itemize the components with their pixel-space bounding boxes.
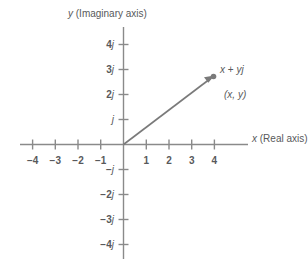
y-axis-title: y (Imaginary axis) <box>68 8 147 19</box>
x-tick-label-2: 2 <box>159 155 179 166</box>
y-tick-label-4j: 4j <box>86 39 114 50</box>
x-axis-title-rest: (Real axis) <box>257 133 308 144</box>
y-tick-unit--2: j <box>112 189 114 200</box>
vector-line <box>124 79 211 145</box>
y-tick-label--3j: −3j <box>86 214 114 225</box>
x-tick-label-3: 3 <box>182 155 202 166</box>
x-axis-title: x (Real axis) <box>252 133 308 144</box>
y-tick-unit-4: j <box>112 39 114 50</box>
y-tick-label-3j: 3j <box>86 64 114 75</box>
y-tick-unit-3: j <box>112 64 114 75</box>
x-tick-label-4: 4 <box>204 155 224 166</box>
y-tick-label--2j: −2j <box>86 189 114 200</box>
y-tick-label-j: j <box>86 114 114 125</box>
point-label-rhs: yj <box>236 64 243 75</box>
y-tick-unit-2: j <box>112 89 114 100</box>
x-tick-label--4: −4 <box>23 155 43 166</box>
y-tick-unit--1: j <box>112 164 114 175</box>
x-tick-label--2: −2 <box>68 155 88 166</box>
y-tick-label-2j: 2j <box>86 89 114 100</box>
point-label-operator: + <box>225 64 236 75</box>
x-tick-label-1: 1 <box>136 155 156 166</box>
y-tick-num--3: −3 <box>100 214 111 225</box>
point-label-coordinate: (x, y) <box>224 89 246 100</box>
y-tick-unit-1: j <box>112 114 114 125</box>
y-tick-label--j: −j <box>86 164 114 175</box>
y-axis-title-rest: (Imaginary axis) <box>73 8 147 19</box>
x-tick-label--3: −3 <box>45 155 65 166</box>
y-tick-label--4j: −4j <box>86 239 114 250</box>
y-tick-unit--4: j <box>112 239 114 250</box>
y-tick-unit--3: j <box>112 214 114 225</box>
point-label-algebraic: x + yj <box>220 64 244 75</box>
y-tick-num--2: −2 <box>100 189 111 200</box>
point-marker <box>211 74 217 80</box>
y-tick-num--4: −4 <box>100 239 111 250</box>
complex-plane-figure: y (Imaginary axis) x (Real axis) −4 −3 −… <box>0 0 308 272</box>
